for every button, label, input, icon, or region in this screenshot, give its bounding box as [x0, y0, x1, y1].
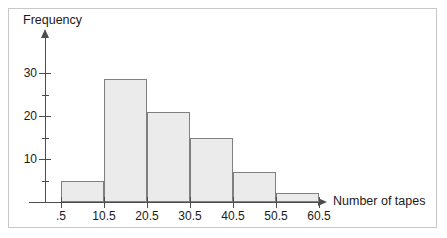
x-axis-tick-label: 40.5	[221, 210, 244, 222]
y-tick-labels: 102030	[9, 9, 37, 229]
x-axis-tick-label: 10.5	[92, 210, 115, 222]
y-axis-tick	[39, 73, 51, 74]
x-axis-tick-label: 60.5	[307, 210, 330, 222]
histogram-bar	[147, 112, 190, 202]
y-axis-tick	[39, 159, 51, 160]
y-axis-line	[45, 37, 46, 203]
x-axis-title: Number of tapes	[333, 194, 425, 208]
y-axis-tick-label: 30	[11, 67, 37, 79]
x-axis-tick-label: 30.5	[178, 210, 201, 222]
x-axis-tick	[104, 197, 105, 208]
figure-frame: Frequency Number of tapes 102030 .510.52…	[8, 8, 437, 228]
x-axis-line	[29, 202, 321, 203]
x-axis-tick-label: .5	[56, 210, 66, 222]
histogram-bar	[61, 181, 104, 203]
x-axis-tick	[147, 197, 148, 208]
histogram-bar	[190, 138, 233, 203]
histogram-plot: Frequency Number of tapes 102030 .510.52…	[9, 9, 438, 229]
x-axis-tick	[190, 197, 191, 208]
y-axis-minor-tick	[42, 181, 49, 182]
y-axis-tick-label: 20	[11, 110, 37, 122]
x-axis-tick-label: 20.5	[135, 210, 158, 222]
histogram-bar	[276, 193, 319, 202]
histogram-bar	[104, 79, 147, 202]
y-axis-tick-label: 10	[11, 153, 37, 165]
y-axis-tick	[39, 116, 51, 117]
x-axis-tick-label: 50.5	[264, 210, 287, 222]
y-axis-arrow-icon	[41, 29, 49, 38]
x-axis-tick	[319, 197, 320, 208]
y-axis-minor-tick	[42, 138, 49, 139]
x-axis-tick	[233, 197, 234, 208]
y-axis-minor-tick	[42, 95, 49, 96]
histogram-bar	[233, 172, 276, 202]
x-axis-tick	[61, 197, 62, 208]
x-axis-tick	[276, 197, 277, 208]
